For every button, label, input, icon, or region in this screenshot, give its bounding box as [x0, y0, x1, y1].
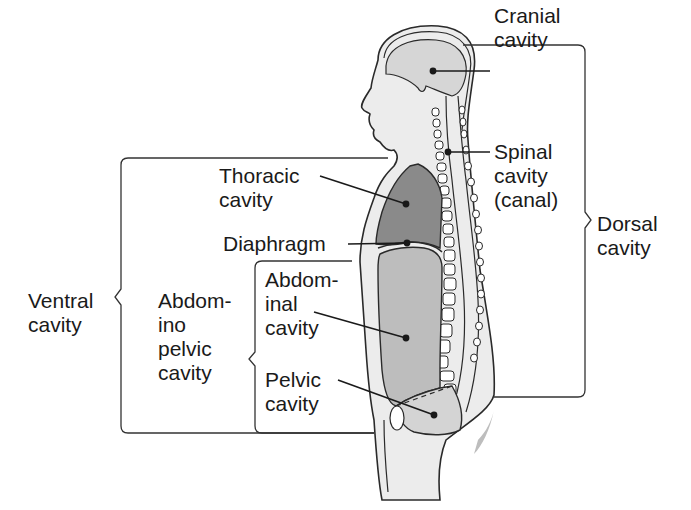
label-pelvic-cavity: Pelvic cavity — [265, 368, 321, 416]
label-thoracic-cavity: Thoracic cavity — [219, 164, 300, 212]
label-cranial-cavity: Cranial cavity — [494, 4, 561, 52]
pubic-bone — [390, 406, 404, 430]
body-cavities-diagram: Cranial cavity Spinal cavity (canal) Dor… — [0, 0, 691, 510]
label-diaphragm: Diaphragm — [223, 232, 326, 256]
label-dorsal-cavity: Dorsal cavity — [597, 212, 658, 260]
abdominal-cavity-region — [378, 247, 442, 406]
label-ventral-cavity: Ventral cavity — [28, 289, 93, 337]
label-abdominopelvic-cavity: Abdom- ino pelvic cavity — [158, 289, 232, 385]
label-abdominal-cavity: Abdom- inal cavity — [265, 268, 339, 340]
diagram-canvas — [0, 0, 691, 510]
label-spinal-cavity: Spinal cavity (canal) — [494, 140, 558, 212]
